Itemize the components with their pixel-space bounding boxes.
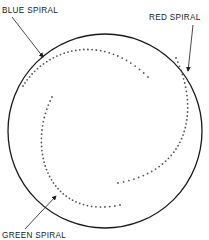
green-spiral-dot (109, 206, 111, 208)
red-spiral-dot (133, 178, 135, 180)
red-spiral-dot (138, 177, 140, 179)
green-spiral-dot (95, 206, 97, 208)
green-spiral-dot (41, 146, 43, 148)
blue-spiral-dot (108, 52, 110, 54)
blue-spiral-dot (22, 85, 24, 87)
red-spiral-dot (147, 173, 149, 175)
red-spiral-dot (128, 180, 130, 182)
green-spiral-dot (51, 179, 53, 181)
red-spiral-dot (179, 65, 181, 67)
red-spiral-dot (158, 166, 160, 168)
green-spiral-dot (87, 205, 89, 207)
red-spiral-dot (165, 160, 167, 162)
blue-spiral-dot (91, 49, 93, 51)
green-spiral-dot (75, 201, 77, 203)
green-spiral-dot (42, 154, 44, 156)
blue-spiral-dot (79, 49, 81, 51)
green-spiral-dot (57, 188, 59, 190)
red-spiral-dot (182, 134, 184, 136)
red-spiral-dot (183, 131, 185, 133)
red-spiral-dot (155, 168, 157, 170)
blue-spiral-dot (100, 50, 102, 52)
blue-spiral-dot (43, 63, 45, 65)
green-spiral-dot (47, 104, 49, 106)
red-spiral-label: RED SPIRAL (149, 13, 201, 22)
blue-spiral-dot (147, 76, 149, 78)
blue-spiral-dot (26, 79, 28, 81)
green-spiral-dot (44, 165, 46, 167)
blue-spiral-dot (121, 57, 123, 59)
blue-spiral-dot (104, 51, 106, 53)
green-spiral-dot (41, 142, 43, 144)
red-spiral-dot (142, 175, 144, 177)
green-spiral-dot (53, 182, 55, 184)
blue-spiral-dot (117, 55, 119, 57)
red-spiral (117, 57, 189, 184)
blue-spiral-dot (87, 49, 89, 51)
green-spiral-dot (42, 121, 44, 123)
blue-spiral-dot (40, 65, 42, 67)
red-spiral-dot (162, 163, 164, 165)
blue-spiral-leader (12, 17, 43, 57)
red-spiral-dot (187, 99, 189, 101)
green-spiral-dot (55, 185, 57, 187)
blue-spiral-dot (63, 52, 65, 54)
blue-spiral-dot (83, 49, 85, 51)
green-spiral-dot (100, 206, 102, 208)
blue-spiral-dot (37, 68, 39, 70)
green-spiral-dot (119, 204, 121, 206)
green-spiral-dot (43, 117, 45, 119)
green-spiral-dot (46, 169, 48, 171)
green-spiral-dot (62, 193, 64, 195)
red-spiral-dot (181, 138, 183, 140)
red-spiral-dot (186, 91, 188, 93)
red-spiral-dot (117, 182, 119, 184)
green-spiral-dot (42, 125, 44, 127)
red-spiral-leader (188, 25, 193, 71)
green-spiral-dot (83, 204, 85, 206)
blue-spiral-label: BLUE SPIRAL (2, 6, 58, 15)
red-spiral-dot (186, 119, 188, 121)
blue-spiral-dot (71, 50, 73, 52)
red-spiral-dot (187, 107, 189, 109)
blue-spiral-dot (24, 82, 26, 84)
red-spiral-dot (175, 148, 177, 150)
green-spiral-dot (41, 137, 43, 139)
red-spiral-dot (151, 171, 153, 173)
blue-spiral-dot (143, 72, 145, 74)
red-spiral-dot (184, 82, 186, 84)
red-spiral-dot (182, 74, 184, 76)
red-spiral-dot (186, 95, 188, 97)
green-spiral-dot (51, 96, 53, 98)
red-spiral-dot (175, 57, 177, 59)
green-spiral-dot (41, 150, 43, 152)
blue-spiral-dot (46, 61, 48, 63)
blue-spiral-dot (31, 73, 33, 75)
red-spiral-dot (177, 145, 179, 147)
red-spiral-dot (187, 111, 189, 113)
green-spiral-dot (41, 129, 43, 131)
red-spiral-dot (170, 155, 172, 157)
blue-spiral-dot (56, 55, 58, 57)
green-spiral-dot (79, 203, 81, 205)
red-spiral-dot (180, 70, 182, 72)
green-spiral-dot (43, 161, 45, 163)
green-spiral-dot (68, 197, 70, 199)
blue-spiral-dot (130, 62, 132, 64)
green-spiral-dot (45, 112, 47, 114)
green-spiral-dot (65, 195, 67, 197)
outer-circle (8, 34, 202, 228)
red-spiral-dot (184, 127, 186, 129)
green-spiral-dot (104, 206, 106, 208)
red-spiral-dot (173, 151, 175, 153)
green-spiral-dot (42, 158, 44, 160)
green-spiral-dot (91, 206, 93, 208)
red-spiral-dot (177, 61, 179, 63)
green-spiral-dot (49, 176, 51, 178)
green-spiral-label: GREEN SPIRAL (2, 231, 66, 240)
blue-spiral-dot (49, 59, 51, 61)
blue-spiral-dot (134, 65, 136, 67)
green-spiral-dot (72, 199, 74, 201)
green-spiral (41, 96, 121, 208)
green-spiral-dot (46, 108, 48, 110)
